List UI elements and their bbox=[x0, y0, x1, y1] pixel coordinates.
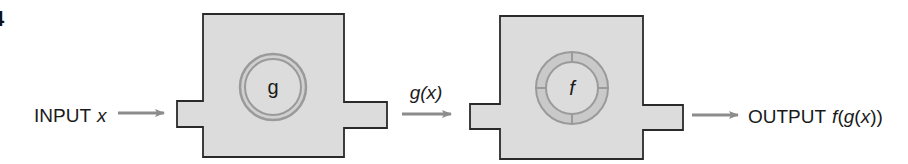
input-label-text: INPUT bbox=[34, 105, 91, 126]
machine-g: g bbox=[177, 14, 387, 157]
output-label-text: OUTPUT bbox=[748, 106, 827, 127]
composition-diagram: 4 INPUTx g g(x) f OUTPUTf(g(x)) bbox=[0, 0, 908, 164]
output-inner-func: g bbox=[844, 106, 855, 127]
input-label: INPUTx bbox=[34, 105, 108, 126]
output-label: OUTPUTf(g(x)) bbox=[748, 106, 883, 127]
machine-g-label: g bbox=[267, 76, 278, 98]
intermediate-label: g(x) bbox=[410, 82, 443, 103]
machine-f: f bbox=[470, 16, 683, 159]
figure-number: 4 bbox=[0, 6, 5, 31]
input-variable: x bbox=[96, 105, 108, 126]
